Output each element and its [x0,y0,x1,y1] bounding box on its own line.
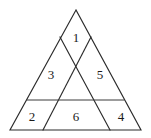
region-label-2: 2 [29,109,36,124]
region-label-3: 3 [48,67,55,82]
region-label-1: 1 [73,30,80,45]
region-label-4: 4 [118,109,125,124]
region-label-5: 5 [97,67,104,82]
triangle-figure: 1 3 5 2 6 4 [0,0,151,138]
triangle-diagram-svg: 1 3 5 2 6 4 [0,0,151,138]
region-label-6: 6 [73,109,80,124]
